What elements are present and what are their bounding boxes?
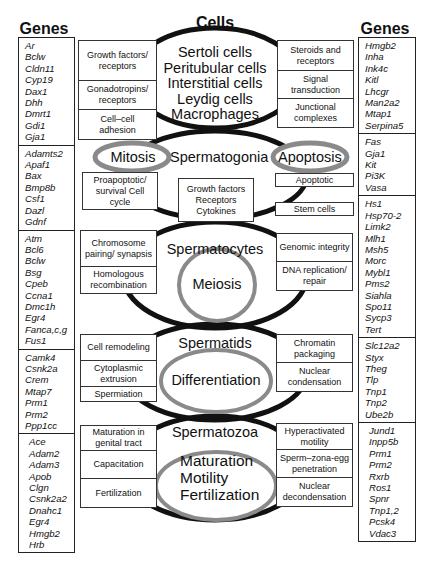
gene: Fus1 (25, 335, 74, 346)
gene: Apob (29, 471, 74, 482)
gene: Bmp8b (25, 182, 74, 193)
gene: Hmgb2 (29, 528, 74, 539)
gene: Ros1 (369, 482, 415, 493)
box-spermiation: Spermiation (81, 387, 156, 401)
genes-left-somatic: Ar Bclw Cldn11 Cyp19 Dax1 Dhh Dmrt1 Gdi1… (19, 38, 74, 146)
box-hyperactivated-motility: Hyperactivated motility (277, 424, 352, 450)
box-sperm-zona: Sperm–zona-egg penetration (277, 450, 352, 478)
box-signal-transduction: Signal transduction (278, 71, 353, 99)
gene: Tlp (365, 374, 415, 385)
gene: Csf1 (25, 193, 74, 204)
gene: Mtap1 (365, 108, 415, 119)
gene: Lhcgr (365, 86, 415, 97)
genes-left-spermatids: Camk4 Csnk2a Crem Mtap7 Prm1 Prm2 Ppp1cc (19, 350, 74, 435)
box-steroids: Steroids and receptors (278, 41, 353, 71)
gene: Ace (29, 436, 74, 447)
somatic-left-box: Growth factors/ receptors Gonadotropins/… (78, 40, 157, 140)
gene: Gja1 (365, 148, 415, 159)
gene: Cyp19 (25, 74, 74, 85)
differentiation-label: Differentiation (165, 372, 267, 388)
genes-left-column: Ar Bclw Cldn11 Cyp19 Dax1 Dhh Dmrt1 Gdi1… (18, 37, 75, 553)
gene: Dnahc1 (29, 505, 74, 516)
spc-left-box: Chromosome pairing/ synapsis Homologous … (80, 230, 157, 294)
gene: Spo11 (365, 301, 415, 312)
box-nuclear-condensation: Nuclear condensation (277, 363, 352, 391)
gene: Prm2 (25, 409, 74, 420)
gene: Tnp1,2 (369, 505, 415, 516)
gene: Atm (25, 233, 74, 244)
gene: Hmgb2 (365, 40, 415, 51)
gene: Limk2 (365, 221, 415, 232)
cell-type: Macrophages (152, 107, 278, 123)
gene: Inpp5b (369, 436, 415, 447)
gene: Kitl (365, 74, 415, 85)
gene: Fanca,c,g (25, 324, 74, 335)
box-nuclear-decondensation: Nuclear decondensation (277, 478, 352, 506)
spc-right-box: Genomic integrity DNA replication/ repai… (276, 233, 353, 291)
gene: Tnp2 (365, 397, 415, 408)
genes-left-spermatozoa: Ace Adam2 Adam3 Apob Clgn Csnk2a2 Dnahc1… (19, 434, 74, 552)
process-motility: Motility (180, 469, 270, 486)
genes-right-somatic: Hmgb2 Inha Ink4c Kitl Lhcgr Man2a2 Mtap1… (359, 38, 415, 134)
genes-right-spermatozoa: Jund1 Inpp5b Prm1 Prm2 Rxrb Ros1 Spnr Tn… (359, 423, 415, 541)
box-dna-replication: DNA replication/ repair (277, 262, 352, 290)
spermatogonia-label: Spermatogonia (170, 149, 260, 165)
box-maturation-genital: Maturation in genital tract (81, 426, 156, 451)
genes-right-spermatogonia: Fas Gja1 Kit Pi3K Vasa (359, 134, 415, 196)
gene: Styx (365, 352, 415, 363)
box-chromosome-pairing: Chromosome pairing/ synapsis (81, 231, 156, 267)
genes-right-column: Hmgb2 Inha Ink4c Kitl Lhcgr Man2a2 Mtap1… (358, 37, 416, 542)
gene: Hrb (29, 539, 74, 550)
gene: Dmrt1 (25, 108, 74, 119)
gene: Tnp1 (365, 386, 415, 397)
box-junctional: Junctional complexes (278, 99, 353, 127)
process-fertilization: Fertilization (180, 486, 270, 503)
box-cell-remodeling: Cell remodeling (81, 335, 156, 361)
gene: Slc12a2 (365, 340, 415, 351)
gene: Mtap7 (25, 386, 74, 397)
spermatids-label: Spermatids (175, 335, 255, 351)
cell-type: Interstitial cells (152, 76, 278, 92)
gene: Dazl (25, 205, 74, 216)
spermatozoa-process-list: Maturation Motility Fertilization (180, 452, 270, 503)
gene: Vasa (365, 182, 415, 193)
spg-left-box: Proapoptotic/ survival Cell cycle (82, 172, 158, 210)
gene: Msh5 (365, 244, 415, 255)
box-gonadotropins: Gonadotropins/ receptors (79, 81, 156, 110)
gene: Man2a2 (365, 97, 415, 108)
gene: Bclw (25, 51, 74, 62)
gene: Ar (25, 40, 74, 51)
gene: Adam2 (29, 448, 74, 459)
gene: Mybl1 (365, 267, 415, 278)
gene: Clgn (29, 482, 74, 493)
genes-left-spermatocytes: Atm Bcl6 Bclw Bsg Cpeb Ccna1 Dmc1h Egr4 … (19, 231, 74, 350)
gene: Cldn11 (25, 63, 74, 74)
spg-apoptotic-box: Apoptotic (275, 173, 354, 187)
genes-right-title: Genes (354, 20, 416, 38)
genes-right-spermatids: Slc12a2 Styx Theg Tlp Tnp1 Tnp2 Ube2b (359, 338, 415, 423)
box-proapoptotic: Proapoptotic/ survival Cell cycle (83, 173, 157, 209)
gene: Tert (365, 324, 415, 335)
gene: Prm1 (25, 397, 74, 408)
gene: Egr4 (25, 312, 74, 323)
spz-right-box: Hyperactivated motility Sperm–zona-egg p… (276, 423, 353, 507)
box-growth-factors: Growth factors/ receptors (79, 41, 156, 81)
box-cell-adhesion: Cell–cell adhesion (79, 110, 156, 139)
gene: Adamts2 (25, 148, 74, 159)
gene: Dax1 (25, 86, 74, 97)
apoptosis-label: Apoptosis (278, 149, 340, 165)
gene: Morc (365, 255, 415, 266)
box-capacitation: Capacitation (81, 451, 156, 479)
gene: Sycp3 (365, 312, 415, 323)
gene: Dhh (25, 97, 74, 108)
spermatocytes-label: Spermatocytes (165, 241, 265, 257)
gene: Fas (365, 136, 415, 147)
spermatozoa-label: Spermatozoa (170, 424, 260, 440)
gene: Csnk2a (25, 363, 74, 374)
genes-left-title: Genes (14, 20, 74, 38)
gene: Theg (365, 363, 415, 374)
gene: Egr4 (29, 516, 74, 527)
gene: Vdac3 (369, 528, 415, 539)
cell-type: Leydig cells (152, 92, 278, 108)
gene: Prm1 (369, 448, 415, 459)
